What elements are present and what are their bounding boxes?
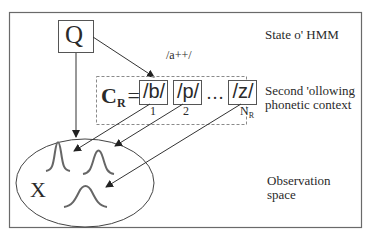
- observation-x-label: X: [30, 178, 46, 202]
- state-of-hmm-label: State o' HMM: [265, 28, 339, 42]
- index-2: 2: [183, 105, 189, 118]
- observation-label-line2: space: [267, 188, 296, 202]
- q-to-context-arrow: [93, 37, 154, 77]
- context-set-c: C: [101, 83, 117, 108]
- context-set-symbol: CR=: [101, 84, 140, 115]
- transition-label: /a++/: [166, 48, 192, 62]
- observation-label-line1: Observation: [267, 174, 331, 188]
- context-label-line2: phonetic context: [265, 98, 351, 112]
- index-n: N: [240, 104, 249, 118]
- context-set-equals: =: [128, 83, 140, 108]
- context-label-line1: Second 'ollowing: [265, 84, 355, 98]
- gaussian-curve-1: [46, 142, 70, 171]
- phone-b-label: /b/: [141, 79, 167, 103]
- index-nr: NR: [240, 105, 254, 122]
- z-to-gaussian-arrow: [106, 104, 241, 187]
- context-set-subscript: R: [117, 96, 126, 110]
- phone-z-label: /z/: [230, 79, 256, 103]
- gaussian-curve-2: [83, 151, 114, 175]
- ellipsis: …: [206, 83, 224, 103]
- state-q-label: Q: [65, 20, 83, 50]
- phone-p-label: /p/: [175, 79, 201, 103]
- index-n-subscript: R: [249, 111, 254, 120]
- gaussian-curve-3: [64, 186, 107, 207]
- index-1: 1: [150, 105, 156, 118]
